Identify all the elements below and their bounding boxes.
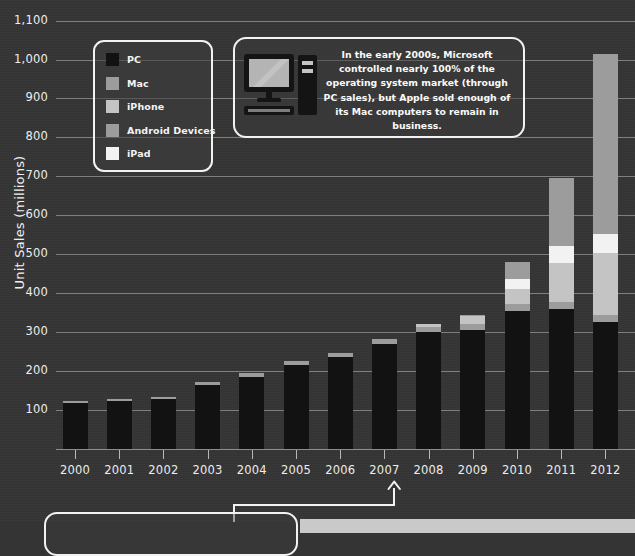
y-axis-tick-label: 400 xyxy=(2,285,48,299)
x-axis-tick xyxy=(296,450,297,459)
bar-segment-pc[interactable] xyxy=(593,322,618,449)
x-axis-tick xyxy=(384,450,385,459)
bar-segment-iphone[interactable] xyxy=(460,316,485,325)
bar-2005[interactable] xyxy=(284,361,309,449)
bar-2007[interactable] xyxy=(372,339,397,449)
y-axis-tick-label: 100 xyxy=(2,402,48,416)
legend-item-mac[interactable]: Mac xyxy=(106,77,149,90)
y-axis-tick-label: 500 xyxy=(2,246,48,260)
bar-segment-pc[interactable] xyxy=(239,377,264,449)
bar-2001[interactable] xyxy=(107,399,132,449)
callout-top-text: In the early 2000s, Microsoft controlled… xyxy=(321,48,513,133)
y-axis-tick-label: 1,000 xyxy=(2,52,48,66)
legend-swatch-icon xyxy=(106,77,119,90)
bar-2012[interactable] xyxy=(593,54,618,449)
bar-segment-pc[interactable] xyxy=(549,309,574,449)
legend-label: iPad xyxy=(127,148,151,159)
bar-2009[interactable] xyxy=(460,315,485,449)
bar-2004[interactable] xyxy=(239,373,264,449)
bar-2006[interactable] xyxy=(328,353,353,449)
bar-segment-ipad[interactable] xyxy=(505,279,530,289)
bar-segment-ipad[interactable] xyxy=(549,246,574,264)
bar-segment-pc[interactable] xyxy=(328,357,353,449)
y-axis-tick-label: 800 xyxy=(2,129,48,143)
bar-segment-ipad[interactable] xyxy=(593,234,618,253)
x-axis-tick xyxy=(340,450,341,459)
bar-2003[interactable] xyxy=(195,382,220,449)
y-axis-tick-label: 1,100 xyxy=(2,13,48,27)
x-axis-tick xyxy=(561,450,562,459)
legend-swatch-icon xyxy=(106,147,119,160)
bar-segment-pc[interactable] xyxy=(63,403,88,449)
callout-box-bottom xyxy=(44,512,298,556)
y-axis-tick-label: 300 xyxy=(2,324,48,338)
bar-2002[interactable] xyxy=(151,397,176,449)
legend-item-iphone[interactable]: iPhone xyxy=(106,100,164,113)
legend-label: Mac xyxy=(127,78,149,89)
bar-segment-pc[interactable] xyxy=(195,385,220,449)
legend-label: iPhone xyxy=(127,101,164,112)
bar-segment-pc[interactable] xyxy=(416,332,441,449)
x-axis-tick xyxy=(163,450,164,459)
bar-segment-mac[interactable] xyxy=(593,315,618,322)
chart-legend: PCMaciPhoneAndroid DevicesiPad xyxy=(93,40,213,172)
bar-2010[interactable] xyxy=(505,262,530,449)
legend-item-ipad[interactable]: iPad xyxy=(106,147,151,160)
arrow-up-2007-icon xyxy=(386,480,403,494)
y-axis-tick-label: 600 xyxy=(2,207,48,221)
legend-item-pc[interactable]: PC xyxy=(106,53,141,66)
bar-segment-pc[interactable] xyxy=(505,311,530,449)
desktop-computer-icon xyxy=(244,52,318,122)
x-axis-tick-label-2012: 2012 xyxy=(578,463,632,477)
bar-segment-mac[interactable] xyxy=(549,302,574,309)
bar-2011[interactable] xyxy=(549,178,574,449)
bar-segment-iphone[interactable] xyxy=(549,263,574,302)
y-axis-tick-label: 900 xyxy=(2,90,48,104)
bar-segment-android-devices[interactable] xyxy=(505,262,530,280)
bar-segment-android-devices[interactable] xyxy=(549,178,574,246)
callout-box-top: In the early 2000s, Microsoft controlled… xyxy=(233,37,525,138)
x-axis-tick xyxy=(429,450,430,459)
x-axis-tick xyxy=(252,450,253,459)
legend-label: Android Devices xyxy=(127,125,216,136)
bar-segment-iphone[interactable] xyxy=(593,253,618,315)
x-axis-tick xyxy=(605,450,606,459)
bar-segment-pc[interactable] xyxy=(284,365,309,449)
bar-segment-pc[interactable] xyxy=(151,399,176,449)
connector-horizontal xyxy=(233,504,395,506)
x-axis-tick xyxy=(517,450,518,459)
legend-swatch-icon xyxy=(106,53,119,66)
bar-segment-pc[interactable] xyxy=(460,330,485,449)
gridline xyxy=(56,21,635,22)
bar-segment-iphone[interactable] xyxy=(505,289,530,305)
y-axis-tick-label: 700 xyxy=(2,168,48,182)
x-axis-baseline xyxy=(56,449,635,450)
x-axis-tick xyxy=(119,450,120,459)
x-axis-tick xyxy=(75,450,76,459)
bar-2000[interactable] xyxy=(63,401,88,449)
bottom-banner-band xyxy=(300,519,635,533)
y-axis-tick-label: 200 xyxy=(2,363,48,377)
x-axis-tick xyxy=(473,450,474,459)
legend-label: PC xyxy=(127,54,141,65)
bar-segment-pc[interactable] xyxy=(107,401,132,449)
x-axis-tick xyxy=(208,450,209,459)
bar-2008[interactable] xyxy=(416,324,441,449)
bar-segment-pc[interactable] xyxy=(372,344,397,449)
legend-item-android-devices[interactable]: Android Devices xyxy=(106,124,216,137)
legend-swatch-icon xyxy=(106,124,119,137)
legend-swatch-icon xyxy=(106,100,119,113)
bar-segment-android-devices[interactable] xyxy=(593,54,618,233)
